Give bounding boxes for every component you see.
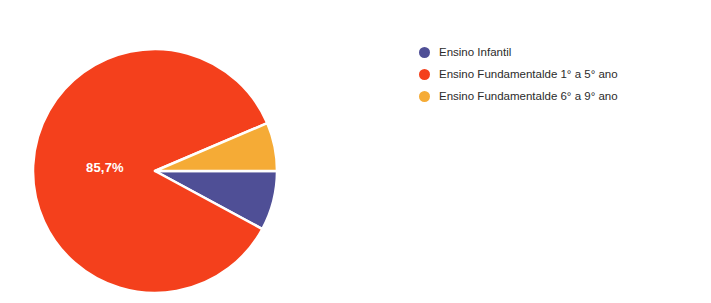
pie-chart-svg: 85,7% bbox=[0, 0, 330, 303]
legend-swatch-icon bbox=[419, 69, 430, 80]
legend-item-fundamental-1-5[interactable]: Ensino Fundamentalde 1° a 5° ano bbox=[419, 63, 699, 85]
pie-chart-figure: 85,7% Ensino Infantil Ensino Fundamental… bbox=[0, 0, 711, 303]
slice-percentage-label: 85,7% bbox=[86, 160, 124, 175]
legend-item-label: Ensino Fundamentalde 1° a 5° ano bbox=[439, 68, 618, 80]
legend-item-fundamental-6-9[interactable]: Ensino Fundamentalde 6° a 9° ano bbox=[419, 85, 699, 107]
legend-item-label: Ensino Fundamentalde 6° a 9° ano bbox=[439, 90, 618, 102]
chart-legend: Ensino Infantil Ensino Fundamentalde 1° … bbox=[419, 41, 699, 107]
legend-item-label: Ensino Infantil bbox=[439, 46, 511, 58]
pie-slice-group bbox=[33, 49, 277, 293]
legend-item-ensino-infantil[interactable]: Ensino Infantil bbox=[419, 41, 699, 63]
legend-swatch-icon bbox=[419, 47, 430, 58]
pie-chart-plot-area: 85,7% bbox=[0, 0, 330, 303]
legend-swatch-icon bbox=[419, 91, 430, 102]
